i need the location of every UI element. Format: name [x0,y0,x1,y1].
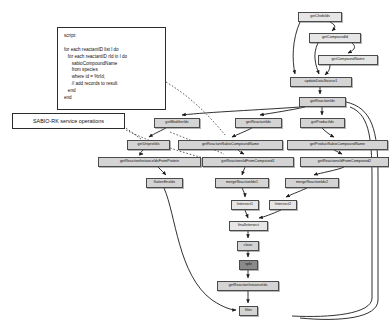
node-getReactionsIdFromCompound1[interactable]: getReactionsIdFromCompound1 [202,157,294,167]
node-getModifierIds[interactable]: getModifierIds [154,118,200,128]
node-clean[interactable]: clean [237,241,259,251]
service-operations-label: SABIO-RK service operations [12,113,125,129]
node-finalIntersect[interactable]: finalIntersect [229,221,268,231]
node-getCompoundName[interactable]: getCompoundName [318,55,378,65]
node-updateDataSource1[interactable]: updateDataSource1 [290,77,352,87]
node-getProductIds[interactable]: getProductIds [300,118,345,128]
node-getUniprotIds[interactable]: getUniprotIds [127,140,170,150]
long-return-edges [292,102,378,319]
workflow-diagram-canvas[interactable]: script: for each reactantID list l do fo… [0,0,389,331]
node-getCompoundId[interactable]: getCompoundId [309,33,361,43]
node-getReactantSabioCompoundName[interactable]: getReactantSabioCompoundName [178,140,283,150]
node-getReactionInstanceIdsFromProtein[interactable]: getReactionInstanceIdsFromProtein [98,157,201,167]
node-Intersect1[interactable]: Intersect1 [231,200,259,210]
node-flattenEnzIds[interactable]: flattenEnzIds [146,178,183,188]
node-getReactionInstanceIds[interactable]: getReactionInstanceIds [217,281,279,291]
node-filter[interactable]: filter [239,306,258,316]
node-getProductSabioCompoundName[interactable]: getProductSabioCompoundName [287,140,388,150]
script-annotation: script: for each reactantID list l do fo… [57,27,166,110]
node-getReactionsIdFromCompound2[interactable]: getReactionsIdFromCompound2 [300,157,389,167]
node-Intersect2[interactable]: Intersect2 [269,200,297,210]
node-mergeReactionIds1[interactable]: mergeReactionIds1 [215,178,269,188]
node-getReactionIds[interactable]: getReactionIds [299,97,346,107]
node-getReactantIds[interactable]: getReactantIds [235,118,282,128]
node-getChebiIds[interactable]: getChebiIds [298,12,342,22]
node-split[interactable]: split [239,260,258,270]
node-mergeReactionIds2[interactable]: mergeReactionIds2 [285,178,339,188]
